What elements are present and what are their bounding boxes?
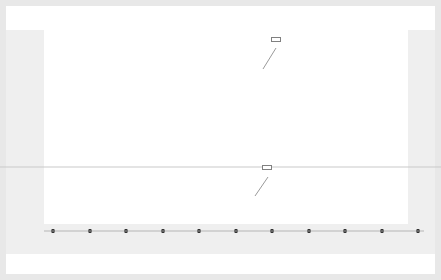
chart-figure xyxy=(0,0,441,280)
plot-area xyxy=(0,0,441,280)
callout-leader-top xyxy=(263,48,276,69)
callout-bottom-rate xyxy=(262,165,272,170)
callout-top-rate xyxy=(271,37,281,42)
callout-leader-bottom xyxy=(255,177,268,196)
